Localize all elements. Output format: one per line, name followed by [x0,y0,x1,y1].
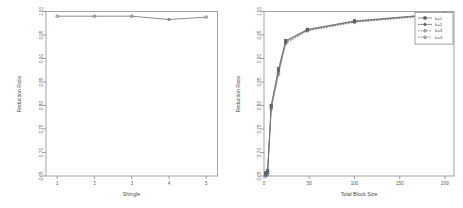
y-tick-label: 1.00 [257,7,262,16]
legend-marker [424,23,426,25]
y-tick-label: 0.80 [39,101,44,110]
legend-marker [424,17,426,19]
x-tick-label: 1 [56,181,59,186]
x-tick-label: 150 [396,181,404,186]
x-axis-title-left: Shingle [123,191,140,197]
y-axis-title-left: Reduction Ratio [16,75,22,112]
y-tick-label: 0.80 [257,101,262,110]
y-tick-label: 0.90 [39,54,44,63]
plot-frame-left [46,12,218,177]
y-tick-label: 0.85 [257,77,262,86]
legend-right[interactable]: k=1k=2k=3k=4 [415,13,453,45]
x-tick-label: 50 [307,181,313,186]
y-tick-label: 0.90 [257,54,262,63]
legend-label[interactable]: k=4 [435,35,443,40]
x-axis-title-right: Total Block Size [341,191,378,197]
y-axis-ticks-right: 0.650.700.750.800.850.900.951.00 [257,7,264,181]
x-tick-label: 200 [441,181,449,186]
y-tick-label: 1.00 [39,7,44,16]
chart-panel-right: 0.650.700.750.800.850.900.951.00 0501001… [232,0,463,208]
y-axis-title-right: Reduction Ratio [235,75,241,112]
y-tick-label: 0.85 [39,77,44,86]
y-tick-label: 0.70 [39,148,44,157]
y-tick-label: 0.75 [257,124,262,133]
x-axis-ticks-left: 12345 [56,176,208,186]
x-tick-label: 100 [351,181,359,186]
legend-label[interactable]: k=3 [435,28,443,33]
x-axis-ticks-right: 050100150200 [263,176,450,186]
legend-box [415,13,453,45]
legend-label[interactable]: k=1 [435,16,443,21]
y-tick-label: 0.65 [39,171,44,180]
y-tick-label: 0.75 [39,124,44,133]
legend-label[interactable]: k=2 [435,22,443,27]
x-tick-label: 2 [93,181,96,186]
x-tick-label: 0 [263,181,266,186]
y-tick-label: 0.70 [257,148,262,157]
x-tick-label: 4 [168,181,171,186]
y-tick-label: 0.95 [257,30,262,39]
y-tick-label: 0.95 [39,30,44,39]
series-group-left [56,15,208,21]
y-tick-label: 0.65 [257,171,262,180]
figure-panel-pair: 0.650.700.750.800.850.900.951.00 12345 R… [0,0,463,208]
x-tick-label: 5 [205,181,208,186]
y-axis-ticks-left: 0.650.700.750.800.850.900.951.00 [39,7,46,181]
chart-panel-left: 0.650.700.750.800.850.900.951.00 12345 R… [0,0,231,208]
x-tick-label: 3 [130,181,133,186]
